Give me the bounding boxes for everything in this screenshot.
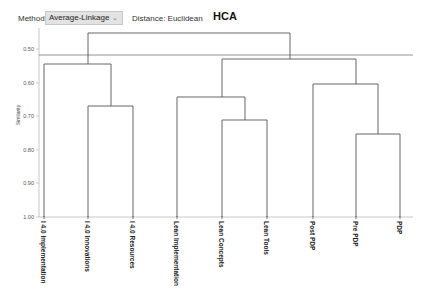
leaf-label: Pre PDP	[352, 221, 359, 247]
leaf-label: PDP	[396, 221, 403, 234]
dendrogram-links	[44, 33, 400, 217]
leaf-label: I 4.0 Implementation	[40, 221, 47, 284]
leaf-ticks	[44, 216, 400, 219]
leaf-label: I 4.0 Innovations	[84, 221, 91, 272]
leaf-label: Lean Tools	[263, 221, 270, 255]
leaf-label: I 4.0 Resources	[129, 221, 136, 269]
leaf-label: Post PDP	[309, 221, 316, 250]
leaf-label: Lean Implementation	[173, 221, 180, 286]
leaf-label: Lean Concepts	[218, 221, 225, 268]
dendrogram-plot	[0, 0, 425, 300]
